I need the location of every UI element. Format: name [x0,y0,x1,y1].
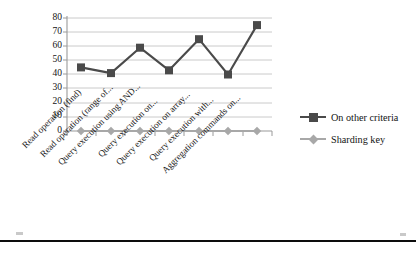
legend-label-on-other-criteria: On other criteria [331,112,398,123]
chart-figure: 80 70 60 50 40 30 20 10 0 [0,0,416,255]
legend-marker-square-icon [300,111,326,123]
legend-item-on-other-criteria: On other criteria [300,106,416,128]
legend-label-sharding-key: Sharding key [331,134,385,145]
scan-speck-2 [400,233,406,236]
legend-item-sharding-key: Sharding key [300,128,416,150]
scan-speck [16,232,23,235]
page-separator-rule [0,240,416,242]
legend-marker-diamond-icon [300,133,326,145]
line-chart: 80 70 60 50 40 30 20 10 0 [0,0,416,255]
chart-legend: On other criteria Sharding key [300,106,416,150]
